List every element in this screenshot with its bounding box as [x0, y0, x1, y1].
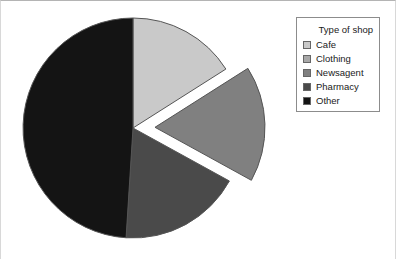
legend-swatch-icon	[303, 55, 311, 63]
legend-title: Type of shop	[303, 24, 373, 35]
legend-item: Other	[303, 94, 374, 108]
legend-item-label: Clothing	[316, 52, 351, 66]
pie-chart-figure: Type of shop CafeClothingNewsagentPharma…	[0, 0, 397, 260]
legend-item-label: Other	[316, 94, 340, 108]
legend-box: Type of shop CafeClothingNewsagentPharma…	[296, 17, 380, 112]
legend-item-label: Newsagent	[316, 66, 364, 80]
legend-swatch-icon	[303, 41, 311, 49]
legend-item-label: Pharmacy	[316, 80, 359, 94]
legend-item: Pharmacy	[303, 80, 374, 94]
pie-slice-other	[23, 18, 133, 238]
legend-item: Newsagent	[303, 66, 374, 80]
pie-chart-svg	[0, 0, 290, 260]
legend-swatch-icon	[303, 69, 311, 77]
legend-swatch-icon	[303, 97, 311, 105]
legend-item: Clothing	[303, 52, 374, 66]
legend-item-label: Cafe	[316, 38, 336, 52]
pie-chart-area	[0, 0, 290, 260]
legend-items: CafeClothingNewsagentPharmacyOther	[303, 38, 374, 108]
legend-swatch-icon	[303, 83, 311, 91]
legend-item: Cafe	[303, 38, 374, 52]
